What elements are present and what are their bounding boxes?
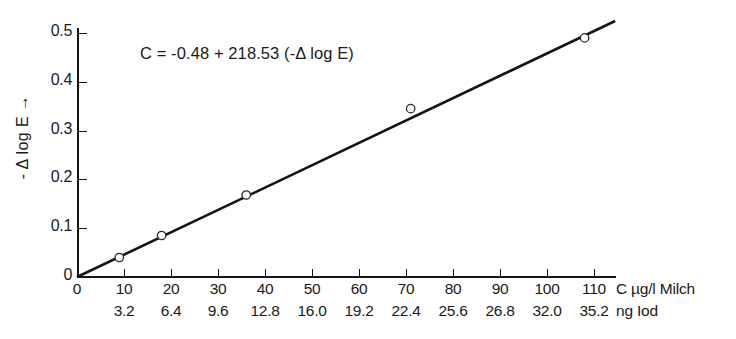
data-point	[407, 104, 415, 112]
x-tick-label-primary: 10	[116, 280, 133, 298]
x-tick-label-secondary: 26.8	[486, 302, 515, 320]
x-tick-label-secondary: 16.0	[298, 302, 327, 320]
y-tick-label: 0.1	[4, 217, 72, 235]
x-tick-label-secondary: 3.2	[114, 302, 135, 320]
y-tick-label: 0.2	[4, 168, 72, 186]
x-axis-tick	[359, 269, 360, 276]
x-tick-label-secondary: 12.8	[251, 302, 280, 320]
x-axis-tick	[500, 269, 501, 276]
x-tick-label-primary: 80	[445, 280, 462, 298]
x-tick-label-secondary: 6.4	[161, 302, 182, 320]
x-tick-label-secondary: 35.2	[580, 302, 609, 320]
x-axis-tick	[312, 269, 313, 276]
x-tick-label-primary: 90	[492, 280, 509, 298]
x-axis-line	[77, 276, 616, 278]
y-axis-line	[77, 28, 79, 278]
data-point	[580, 34, 588, 42]
x-tick-label-primary: 60	[351, 280, 368, 298]
y-tick-label: 0.4	[4, 71, 72, 89]
x-tick-label-secondary: 9.6	[208, 302, 229, 320]
data-point-group	[115, 34, 589, 262]
x-tick-label-secondary: 32.0	[533, 302, 562, 320]
y-axis-tick	[79, 179, 87, 180]
regression-equation: C = -0.48 + 218.53 (-Δ log E)	[140, 44, 354, 63]
x-axis-unit-primary: C µg/l Milch	[616, 280, 695, 298]
x-axis-tick	[124, 269, 125, 276]
x-axis-tick	[171, 269, 172, 276]
y-axis-tick	[79, 131, 87, 132]
x-axis-tick	[406, 269, 407, 276]
y-axis-tick	[79, 228, 87, 229]
x-tick-label-primary: 110	[582, 280, 606, 298]
x-tick-label-secondary: 22.4	[392, 302, 421, 320]
y-axis-tick	[79, 82, 87, 83]
x-axis-tick	[265, 269, 266, 276]
x-axis-tick	[547, 269, 548, 276]
x-tick-label-primary: 40	[257, 280, 274, 298]
x-tick-label-secondary: 19.2	[345, 302, 374, 320]
y-tick-label: 0.5	[4, 22, 72, 40]
data-point	[242, 191, 250, 199]
data-point	[115, 253, 123, 261]
x-axis-tick	[218, 269, 219, 276]
chart-figure: - Δ log E → C = -0.48 + 218.53 (-Δ log E…	[0, 0, 736, 339]
x-axis-unit-secondary: ng Iod	[616, 302, 658, 320]
x-tick-label-primary: 20	[163, 280, 180, 298]
y-tick-label: 0	[4, 266, 72, 284]
x-tick-label-primary: 70	[398, 280, 415, 298]
x-tick-label-primary: 30	[210, 280, 227, 298]
x-axis-tick	[453, 269, 454, 276]
x-tick-label-primary: 100	[535, 280, 560, 298]
x-tick-label-primary: 50	[304, 280, 321, 298]
x-tick-label-primary: 0	[73, 280, 81, 298]
data-point	[157, 231, 165, 239]
x-tick-label-secondary: 25.6	[439, 302, 468, 320]
y-tick-label-group: 0.50.40.30.20.10	[0, 0, 72, 300]
x-axis-tick	[594, 269, 595, 276]
y-axis-tick	[79, 33, 87, 34]
y-tick-label: 0.3	[4, 120, 72, 138]
